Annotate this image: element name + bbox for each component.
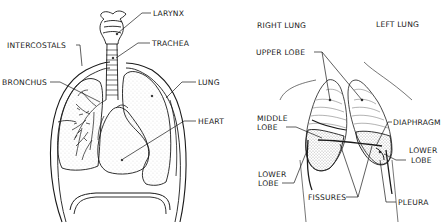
label-intercostals: INTERCOSTALS bbox=[7, 41, 66, 50]
label-fissures: FISSURES bbox=[308, 193, 346, 202]
lungs-illustration bbox=[0, 0, 444, 224]
label-lower-lobe-left-line1: LOWER bbox=[258, 170, 287, 179]
label-trachea: TRACHEA bbox=[152, 39, 189, 48]
intercostals-leader bbox=[76, 45, 82, 66]
label-lower-lobe-left-line2: LOBE bbox=[258, 179, 279, 188]
label-larynx: LARYNX bbox=[153, 9, 184, 18]
label-lower-lobe-right-line2: LOBE bbox=[411, 156, 432, 165]
label-middle-lobe-line2: LOBE bbox=[257, 123, 278, 132]
label-upper-lobe: UPPER LOBE bbox=[256, 48, 305, 57]
label-left-lung: LEFT LUNG bbox=[376, 20, 419, 29]
label-right-lung: RIGHT LUNG bbox=[257, 21, 306, 30]
label-lower-lobe-right-line1: LOWER bbox=[409, 146, 438, 155]
label-middle-lobe-line1: MIDDLE bbox=[257, 114, 288, 123]
anatomy-diagram: LARYNX TRACHEA INTERCOSTALS BRONCHUS LUN… bbox=[0, 0, 444, 224]
label-diaphragm: DIAPHRAGM bbox=[393, 118, 441, 127]
trachea-leader bbox=[116, 43, 150, 58]
label-pleura: PLEURA bbox=[398, 198, 429, 207]
label-bronchus: BRONCHUS bbox=[2, 78, 47, 87]
label-lung: LUNG bbox=[198, 78, 220, 87]
label-heart: HEART bbox=[198, 117, 224, 126]
lung-leader bbox=[166, 82, 196, 98]
